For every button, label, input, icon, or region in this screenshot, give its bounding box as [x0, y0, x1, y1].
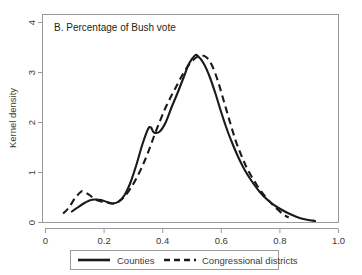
y-tick-label-0: 0	[26, 220, 37, 225]
x-tick-label-5: 1.0	[332, 235, 345, 246]
y-axis-title: Kernel density	[7, 88, 18, 148]
plot-frame	[43, 15, 339, 223]
chart-legend: Counties Congressional districts	[71, 251, 298, 270]
x-tick-label-2: 0.4	[156, 235, 169, 246]
x-axis-ticks	[46, 229, 339, 234]
y-tick-label-1: 1	[26, 170, 37, 175]
y-tick-label-4: 4	[26, 20, 37, 25]
series-counties	[72, 55, 315, 221]
panel-title: B. Percentage of Bush vote	[54, 22, 176, 33]
kernel-density-chart: 0 1 2 3 4 Kernel density 0 0.2 0.4 0.6 0…	[0, 0, 362, 275]
series-congressional-districts	[63, 55, 289, 217]
x-tick-label-3: 0.6	[215, 235, 228, 246]
x-tick-label-4: 0.8	[273, 235, 286, 246]
figure-container: 0 1 2 3 4 Kernel density 0 0.2 0.4 0.6 0…	[0, 0, 362, 275]
x-tick-label-1: 0.2	[97, 235, 110, 246]
legend-label-congressional-districts: Congressional districts	[202, 255, 298, 266]
y-tick-label-3: 3	[26, 70, 37, 75]
y-tick-label-2: 2	[26, 120, 37, 125]
x-tick-label-0: 0	[43, 235, 48, 246]
y-axis-ticks	[38, 23, 43, 223]
legend-label-counties: Counties	[117, 255, 155, 266]
